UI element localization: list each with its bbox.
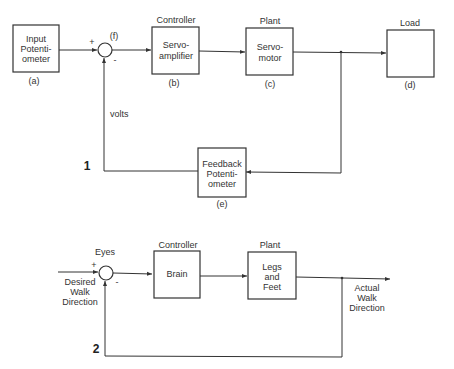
plant-heading: Plant bbox=[260, 16, 281, 26]
controller-tag: (b) bbox=[169, 78, 180, 88]
controller-to-plant-arrow bbox=[199, 51, 245, 52]
plus-sign: + bbox=[89, 37, 94, 47]
input-potentiometer-box: Input Potenti- ometer (a) bbox=[13, 25, 59, 86]
legs-line-2: and bbox=[264, 272, 279, 282]
diagram-2-number: 2 bbox=[93, 342, 100, 356]
controller-heading-2: Controller bbox=[158, 240, 197, 250]
controller-line-1: Servo- bbox=[163, 40, 190, 50]
servo-amplifier-box: Controller Servo- amplifier (b) bbox=[152, 15, 199, 88]
input-label-line-1: Desired bbox=[64, 277, 95, 287]
load-heading: Load bbox=[400, 18, 420, 28]
input-box-tag: (a) bbox=[29, 76, 40, 86]
feedback-loop-2 bbox=[105, 278, 342, 357]
diagram-1: Input Potenti- ometer (a) (f) + - Contro… bbox=[13, 15, 434, 209]
feedback-tag: (e) bbox=[217, 199, 228, 209]
legs-line-3: Feet bbox=[263, 282, 282, 292]
brain-label: Brain bbox=[166, 269, 187, 279]
diagram-1-number: 1 bbox=[84, 159, 91, 173]
brain-box: Controller Brain bbox=[154, 240, 200, 298]
legs-and-feet-box: Plant Legs and Feet bbox=[248, 240, 296, 299]
input-box-line-3: ometer bbox=[22, 54, 50, 64]
output-label-line-3: Direction bbox=[349, 303, 385, 313]
junction-tag: (f) bbox=[110, 31, 119, 41]
eyes-label: Eyes bbox=[95, 247, 116, 257]
output-label-line-1: Actual bbox=[354, 283, 379, 293]
plant-heading-2: Plant bbox=[260, 240, 281, 250]
output-label-line-2: Walk bbox=[357, 293, 377, 303]
plant-line-2: motor bbox=[258, 53, 281, 63]
input-label-line-2: Walk bbox=[70, 287, 90, 297]
input-box-line-1: Input bbox=[26, 34, 47, 44]
load-box: Load (d) bbox=[387, 18, 434, 90]
plant-to-load-arrow bbox=[293, 52, 386, 53]
controller-line-2: amplifier bbox=[159, 51, 193, 61]
minus-sign-2: - bbox=[116, 277, 119, 287]
diagram-2: Desired Walk Direction Eyes + - Controll… bbox=[58, 240, 390, 357]
load-tag: (d) bbox=[405, 80, 416, 90]
input-box-line-2: Potenti- bbox=[20, 44, 51, 54]
servo-motor-box: Plant Servo- motor (c) bbox=[246, 16, 293, 89]
control-diagrams: Input Potenti- ometer (a) (f) + - Contro… bbox=[0, 0, 454, 369]
volts-label: volts bbox=[110, 109, 129, 119]
feedback-line-3: ometer bbox=[208, 179, 236, 189]
feedback-line-2: Potenti- bbox=[206, 169, 237, 179]
junction-to-brain-arrow bbox=[113, 273, 152, 274]
input-label-line-3: Direction bbox=[62, 297, 98, 307]
legs-line-1: Legs bbox=[262, 262, 282, 272]
feedback-line-1: Feedback bbox=[202, 159, 242, 169]
plant-tag: (c) bbox=[265, 79, 276, 89]
plant-line-1: Servo- bbox=[257, 42, 284, 52]
minus-sign: - bbox=[114, 55, 117, 65]
plus-sign-2: + bbox=[91, 260, 96, 270]
feedback-potentiometer-box: Feedback Potenti- ometer (e) bbox=[198, 148, 246, 209]
controller-heading: Controller bbox=[156, 15, 195, 25]
